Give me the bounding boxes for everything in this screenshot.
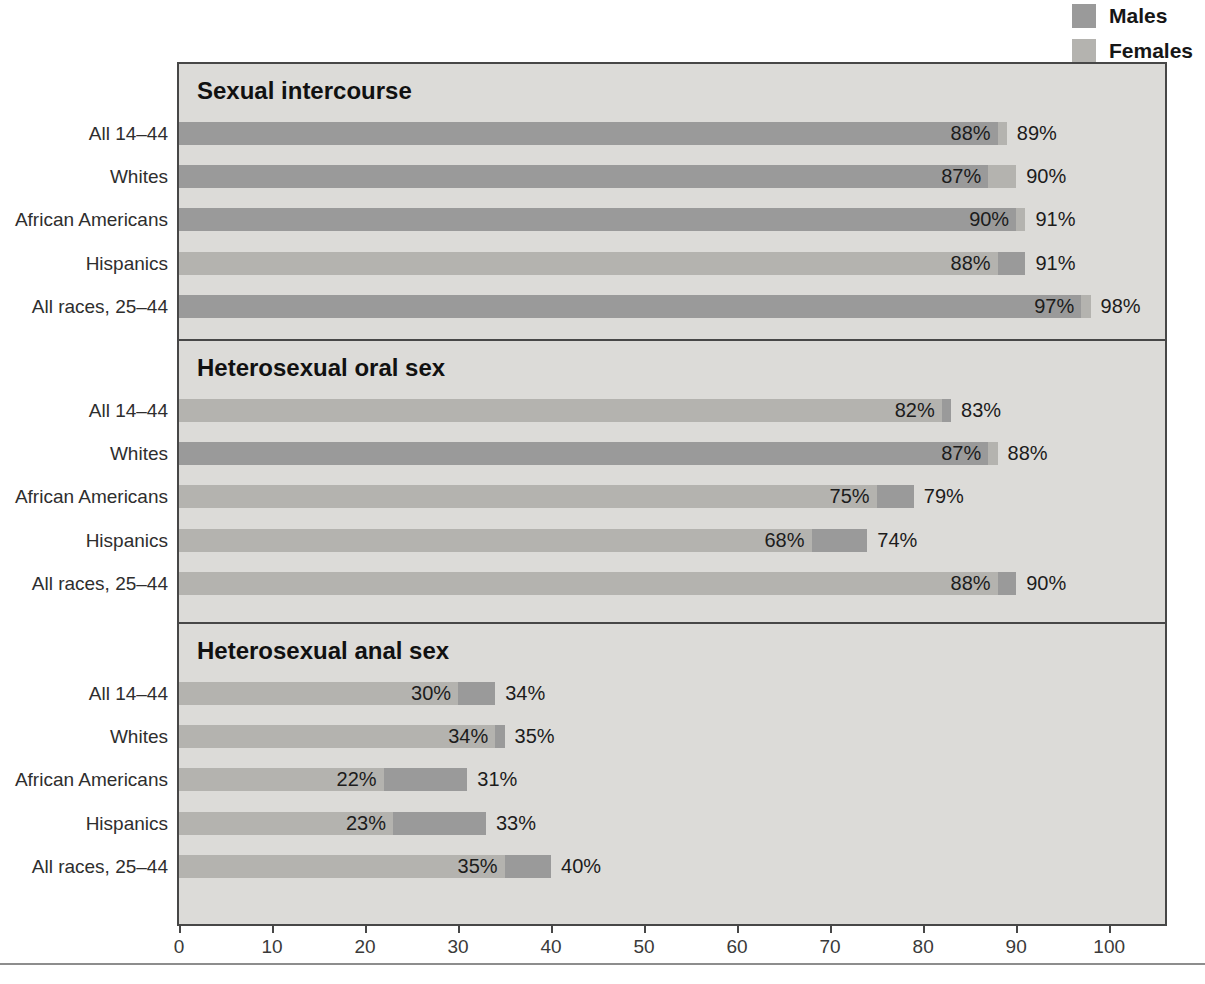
males-value-label: 88%: [179, 122, 991, 145]
category-label: Hispanics: [0, 529, 168, 552]
axis-tick: [551, 924, 553, 933]
bar-row: All races, 25–4488%90%: [179, 572, 1165, 595]
axis-tick-label: 80: [893, 936, 953, 958]
bar-row: All races, 25–4435%40%: [179, 855, 1165, 878]
category-label: Whites: [0, 442, 168, 465]
category-label: All races, 25–44: [0, 295, 168, 318]
axis-tick-label: 40: [521, 936, 581, 958]
males-value-label: 35%: [515, 725, 555, 748]
males-value-label: 74%: [877, 529, 917, 552]
axis-tick: [644, 924, 646, 933]
axis-tick: [365, 924, 367, 933]
axis-tick: [272, 924, 274, 933]
bar-row: All 14–4488%89%: [179, 122, 1165, 145]
males-value-label: 79%: [924, 485, 964, 508]
bar-row: African Americans75%79%: [179, 485, 1165, 508]
males-value-label: 40%: [561, 855, 601, 878]
category-label: Hispanics: [0, 252, 168, 275]
bar-row: African Americans90%91%: [179, 208, 1165, 231]
females-value-label: 30%: [179, 682, 451, 705]
axis-tick-label: 70: [800, 936, 860, 958]
males-value-label: 87%: [179, 165, 981, 188]
legend-item-females: Females: [1072, 38, 1193, 63]
females-value-label: 23%: [179, 812, 386, 835]
category-label: All races, 25–44: [0, 572, 168, 595]
females-value-label: 35%: [179, 855, 498, 878]
females-value-label: 90%: [1026, 165, 1066, 188]
axis-tick: [830, 924, 832, 933]
bar-row: Whites34%35%: [179, 725, 1165, 748]
females-value-label: 82%: [179, 399, 935, 422]
males-value-label: 33%: [496, 812, 536, 835]
bar-row: All 14–4430%34%: [179, 682, 1165, 705]
panel-title: Heterosexual oral sex: [197, 354, 445, 382]
axis-tick-label: 30: [428, 936, 488, 958]
category-label: Hispanics: [0, 812, 168, 835]
females-value-label: 98%: [1101, 295, 1141, 318]
females-swatch-icon: [1072, 39, 1096, 63]
bar-row: All races, 25–4497%98%: [179, 295, 1165, 318]
plot-area: Sexual intercourseAll 14–4488%89%Whites8…: [177, 62, 1167, 926]
females-value-label: 68%: [179, 529, 805, 552]
figure: Males Females Sexual intercourseAll 14–4…: [0, 0, 1205, 984]
females-value-label: 89%: [1017, 122, 1057, 145]
panel-1: Sexual intercourseAll 14–4488%89%Whites8…: [179, 64, 1165, 339]
panel-title: Heterosexual anal sex: [197, 637, 449, 665]
axis-tick-label: 10: [242, 936, 302, 958]
axis-tick-label: 60: [707, 936, 767, 958]
category-label: All 14–44: [0, 122, 168, 145]
category-label: All 14–44: [0, 682, 168, 705]
category-label: African Americans: [0, 485, 168, 508]
legend-label-females: Females: [1109, 39, 1193, 63]
bar-row: Hispanics88%91%: [179, 252, 1165, 275]
axis-tick: [1109, 924, 1111, 933]
category-label: Whites: [0, 725, 168, 748]
panel-title: Sexual intercourse: [197, 77, 412, 105]
category-label: All races, 25–44: [0, 855, 168, 878]
panel-3: Heterosexual anal sexAll 14–4430%34%Whit…: [179, 622, 1165, 928]
females-value-label: 22%: [179, 768, 377, 791]
males-value-label: 91%: [1035, 252, 1075, 275]
males-value-label: 90%: [1026, 572, 1066, 595]
males-value-label: 87%: [179, 442, 981, 465]
bar-row: African Americans22%31%: [179, 768, 1165, 791]
bar-row: All 14–4482%83%: [179, 399, 1165, 422]
males-value-label: 31%: [477, 768, 517, 791]
bar-row: Hispanics23%33%: [179, 812, 1165, 835]
legend-label-males: Males: [1109, 4, 1167, 28]
bar-row: Hispanics68%74%: [179, 529, 1165, 552]
axis-tick: [458, 924, 460, 933]
bottom-rule: [0, 963, 1205, 965]
males-value-label: 83%: [961, 399, 1001, 422]
males-swatch-icon: [1072, 4, 1096, 28]
bar-row: Whites87%90%: [179, 165, 1165, 188]
females-value-label: 88%: [1008, 442, 1048, 465]
axis-tick-label: 90: [986, 936, 1046, 958]
axis-tick: [923, 924, 925, 933]
legend-item-males: Males: [1072, 3, 1167, 28]
bar-row: Whites87%88%: [179, 442, 1165, 465]
axis-tick-label: 0: [149, 936, 209, 958]
females-value-label: 88%: [179, 252, 991, 275]
females-value-label: 75%: [179, 485, 870, 508]
panel-2: Heterosexual oral sexAll 14–4482%83%Whit…: [179, 339, 1165, 622]
axis-tick-label: 100: [1079, 936, 1139, 958]
category-label: Whites: [0, 165, 168, 188]
axis-tick-label: 50: [614, 936, 674, 958]
females-value-label: 91%: [1035, 208, 1075, 231]
females-value-label: 88%: [179, 572, 991, 595]
category-label: African Americans: [0, 208, 168, 231]
axis-tick: [737, 924, 739, 933]
category-label: All 14–44: [0, 399, 168, 422]
females-value-label: 34%: [179, 725, 488, 748]
males-value-label: 90%: [179, 208, 1009, 231]
males-value-label: 97%: [179, 295, 1074, 318]
axis-tick-label: 20: [335, 936, 395, 958]
axis-tick: [1016, 924, 1018, 933]
category-label: African Americans: [0, 768, 168, 791]
axis-tick: [179, 924, 181, 933]
males-value-label: 34%: [505, 682, 545, 705]
